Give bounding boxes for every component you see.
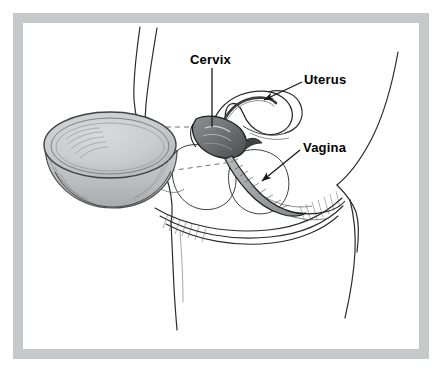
label-vagina: Vagina bbox=[303, 140, 346, 155]
label-cervix: Cervix bbox=[190, 52, 231, 67]
leader-vagina bbox=[262, 150, 300, 181]
illustration-page: Cervix Uterus Vagina bbox=[0, 0, 442, 372]
pelvic-floor-icon bbox=[155, 198, 343, 244]
diaphragm-cup-icon bbox=[44, 112, 177, 208]
label-uterus: Uterus bbox=[304, 72, 346, 87]
